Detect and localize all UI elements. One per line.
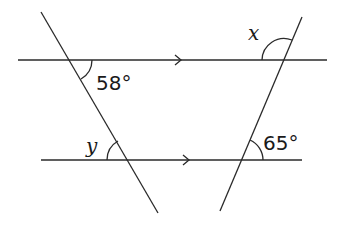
angle-arc-58 [81, 60, 92, 79]
angle-label-y: y [85, 134, 98, 158]
angle-label-x: x [248, 21, 259, 45]
geometry-diagram: 58° x y 65° [0, 0, 342, 234]
angle-label-65: 65° [263, 131, 298, 155]
left-transversal [41, 12, 158, 213]
right-transversal [220, 17, 302, 211]
angle-arc-x [262, 38, 292, 60]
angle-arc-y [107, 141, 118, 160]
angle-arc-65 [250, 140, 263, 160]
angle-label-58: 58° [96, 71, 131, 95]
